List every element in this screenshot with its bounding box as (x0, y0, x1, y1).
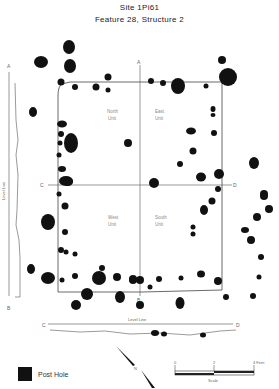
south-unit-label: SouthUnit (155, 215, 167, 227)
label-d-right: D (233, 182, 237, 188)
svg-text:N: N (134, 366, 137, 371)
legend-label: Post Hole (38, 371, 68, 378)
section-lines (48, 65, 232, 296)
east-unit-label: EastUnit (155, 109, 165, 121)
scale-tick-4: 4 Feet (253, 360, 265, 365)
scale-bar: 0 2 4 Feet Scale (174, 360, 265, 383)
profile-a-b (9, 72, 20, 297)
profile-label-d: D (236, 322, 240, 328)
profile-label-c: C (42, 322, 46, 328)
post-hole-legend-icon (18, 367, 32, 381)
north-unit-label: NorthUnit (107, 109, 119, 121)
post-holes (27, 40, 273, 310)
scale-tick-0: 0 (174, 360, 177, 365)
profile-label-a: A (7, 63, 11, 69)
label-c-left: C (40, 182, 44, 188)
horizontal-level-line-label: Level Line (128, 317, 147, 322)
vertical-level-line-label: Level Line (1, 181, 6, 200)
label-a-top: A (137, 59, 141, 65)
profile-c-d (48, 324, 236, 335)
profile-label-b: B (7, 305, 11, 311)
north-arrow-icon: N (116, 346, 155, 388)
west-unit-label: WestUnit (108, 215, 119, 227)
scale-label: Scale (208, 378, 219, 383)
scale-tick-2: 2 (213, 360, 216, 365)
site-plan-map: A B C D NorthUnit EastUnit WestUnit Sout… (0, 0, 279, 389)
